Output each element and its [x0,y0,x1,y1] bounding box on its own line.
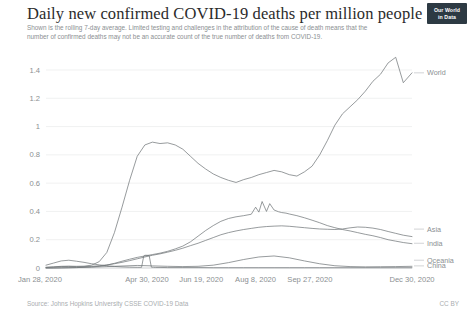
x-axis-tick-label: Jan 28, 2020 [18,275,62,284]
y-axis-tick-label: 0 [36,264,40,273]
chart-subtitle: Shown is the rolling 7-day average. Limi… [27,24,372,41]
series-line-asia[interactable] [46,226,412,268]
y-axis-tick-label: 0.2 [29,235,40,244]
license-note: CC BY [439,300,459,307]
x-axis-tick-label: Apr 30, 2020 [125,275,169,284]
y-axis-tick-label: 1 [36,122,40,131]
chart-page: Daily new confirmed COVID-19 deaths per … [0,0,469,318]
source-note: Source: Johns Hopkins University CSSE CO… [27,300,188,307]
y-axis-tick-label: 0.4 [29,207,40,216]
line-chart[interactable]: 00.20.40.60.811.21.4Jan 28, 2020Apr 30, … [0,46,469,292]
chart-canvas[interactable]: 00.20.40.60.811.21.4Jan 28, 2020Apr 30, … [0,46,469,292]
y-axis-tick-label: 1.4 [29,66,40,75]
x-axis-tick-label: Jun 19, 2020 [179,275,223,284]
x-axis-tick-label: Dec 30, 2020 [389,275,434,284]
y-axis-tick-label: 1.2 [29,94,40,103]
series-line-world[interactable] [46,57,412,267]
legend-label-india[interactable]: India [427,239,443,248]
y-axis-tick-label: 0.6 [29,179,40,188]
our-world-in-data-logo[interactable]: Our World in Data [427,3,467,24]
x-axis-tick-label: Sep 27, 2020 [287,275,332,284]
page-title: Daily new confirmed COVID-19 deaths per … [27,4,422,24]
logo-line-2: in Data [438,14,456,20]
legend-label-china[interactable]: China [427,261,446,270]
legend-label-world[interactable]: World [427,68,446,77]
y-axis-tick-label: 0.8 [29,150,40,159]
x-axis-tick-label: Aug 8, 2020 [235,275,276,284]
legend-label-asia[interactable]: Asia [427,225,441,234]
